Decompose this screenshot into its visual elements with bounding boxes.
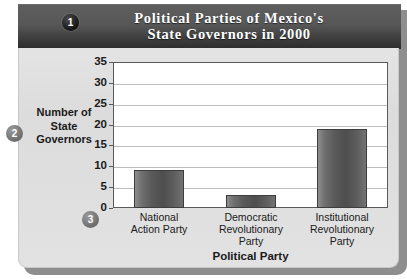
gridline <box>114 84 387 85</box>
chart-title: Political Parties of Mexico's State Gove… <box>64 10 394 42</box>
y-tick-label: 5 <box>83 180 107 192</box>
y-tick-mark <box>109 145 113 146</box>
x-tick-label-line: Institutional <box>296 211 388 223</box>
y-tick-label: 30 <box>83 76 107 88</box>
bar <box>317 129 367 208</box>
y-tick-mark <box>109 83 113 84</box>
y-tick-mark <box>109 104 113 105</box>
callout-badge-3: 3 <box>82 211 99 228</box>
callout-badge-1: 1 <box>62 14 79 31</box>
x-tick-label-line: Action Party <box>113 223 205 235</box>
y-tick-label: 0 <box>83 201 107 213</box>
x-tick-label-line: Revolutionary <box>205 223 297 235</box>
x-tick-label: DemocraticRevolutionaryParty <box>205 211 297 247</box>
x-tick-label: NationalAction Party <box>113 211 205 235</box>
gridline <box>114 105 387 106</box>
x-tick-label-line: Party <box>296 235 388 247</box>
y-tick-label: 10 <box>83 159 107 171</box>
gridline <box>114 126 387 127</box>
x-tick-label-line: Revolutionary <box>296 223 388 235</box>
y-tick-mark <box>109 62 113 63</box>
y-tick-mark <box>109 187 113 188</box>
bar <box>134 170 184 208</box>
x-tick-label-line: National <box>113 211 205 223</box>
callout-badge-2: 2 <box>6 125 23 142</box>
y-tick-mark <box>109 208 113 209</box>
chart-title-line-2: State Governors in 2000 <box>64 26 394 42</box>
bar <box>226 195 276 208</box>
y-tick-label: 20 <box>83 118 107 130</box>
x-tick-label-line: Democratic <box>205 211 297 223</box>
y-tick-mark <box>109 125 113 126</box>
chart-figure: Political Parties of Mexico's State Gove… <box>0 0 407 279</box>
x-tick-label: InstitutionalRevolutionaryParty <box>296 211 388 247</box>
y-tick-label: 35 <box>83 55 107 67</box>
x-axis-title: Political Party <box>113 250 388 262</box>
y-tick-label: 25 <box>83 97 107 109</box>
x-tick-label-line: Party <box>205 235 297 247</box>
chart-title-line-1: Political Parties of Mexico's <box>134 10 323 26</box>
y-tick-label: 15 <box>83 138 107 150</box>
y-tick-mark <box>109 166 113 167</box>
